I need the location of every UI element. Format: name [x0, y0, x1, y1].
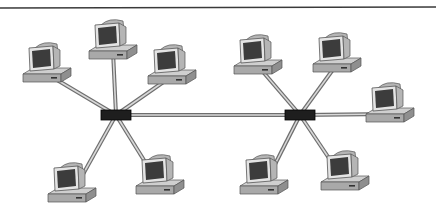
- computer-icon: [48, 163, 96, 202]
- hub-icon: [101, 110, 131, 120]
- computer-icon: [240, 155, 288, 194]
- computer-icon: [23, 43, 71, 82]
- cable-pc-l2: [113, 51, 116, 115]
- computer-icon: [321, 151, 369, 190]
- computer-icon: [313, 33, 361, 72]
- top-rule: [0, 7, 436, 8]
- computer-icon: [234, 35, 282, 74]
- computer-icon: [366, 83, 414, 122]
- computer-icon: [148, 45, 196, 84]
- hub-icon: [285, 110, 315, 120]
- computers: [23, 20, 414, 202]
- computer-icon: [136, 155, 184, 194]
- network-diagram: [0, 0, 436, 216]
- computer-icon: [89, 20, 137, 59]
